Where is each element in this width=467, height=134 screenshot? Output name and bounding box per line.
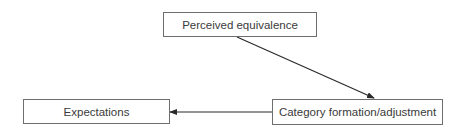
node-expectations: Expectations	[23, 99, 170, 124]
node-category-formation: Category formation/adjustment	[272, 99, 443, 125]
diagram-canvas: Perceived equivalence Category formation…	[0, 0, 467, 134]
node-perceived-equivalence: Perceived equivalence	[163, 12, 317, 37]
edge-perceived-to-category	[237, 37, 374, 98]
node-label: Expectations	[64, 106, 130, 118]
node-label: Perceived equivalence	[182, 19, 298, 31]
node-label: Category formation/adjustment	[279, 106, 436, 118]
